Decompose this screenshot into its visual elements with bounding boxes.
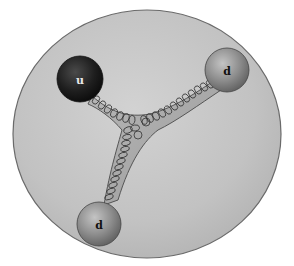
proton-quark-diagram: u d d [0,0,294,266]
quark-down-right-label: d [223,65,231,78]
quark-down-bottom-label: d [95,219,103,232]
quark-down-bottom: d [77,202,121,246]
quark-down-right: d [205,48,249,92]
quark-up-label: u [76,74,84,87]
quark-up: u [57,56,103,102]
